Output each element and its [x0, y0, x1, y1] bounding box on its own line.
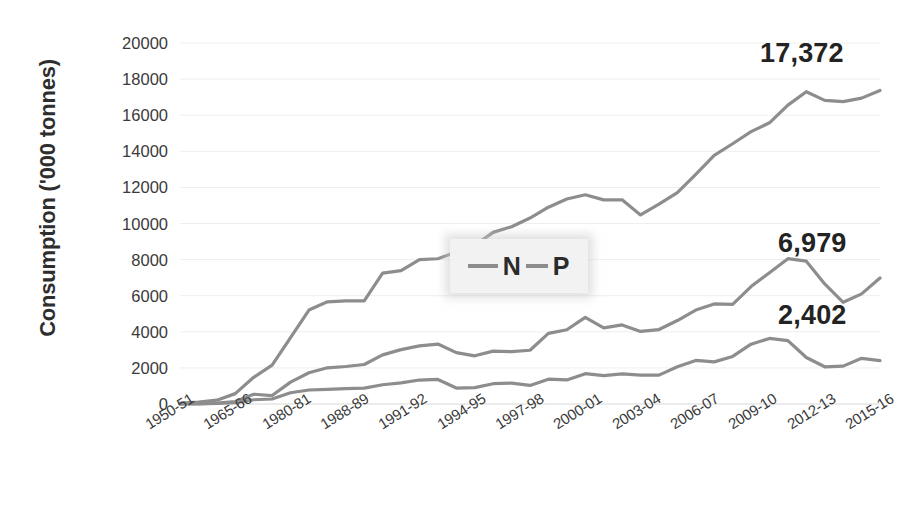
end-value-label-n: 17,372 [760, 38, 844, 69]
legend-label-n: N [502, 254, 522, 279]
legend-label-p: P [552, 254, 571, 279]
x-axis-tick-2006-07: 2006-07 [667, 390, 722, 433]
x-axis-tick-2012-13: 2012-13 [784, 390, 839, 433]
x-axis-tick-1988-89: 1988-89 [317, 390, 372, 433]
x-axis-tick-2000-01: 2000-01 [550, 390, 605, 433]
legend-line-marker-n [468, 264, 498, 268]
legend-line-marker-p [526, 264, 548, 268]
x-axis-tick-1965-66: 1965-66 [200, 390, 255, 433]
line-chart: Consumption ('000 tonnes) 20000180001600… [0, 0, 915, 520]
x-axis-tick-1991-92: 1991-92 [375, 390, 430, 433]
x-axis-tick-2009-10: 2009-10 [725, 390, 780, 433]
x-axis-tick-2003-04: 2003-04 [609, 390, 664, 433]
x-axis-tick-1950-51: 1950-51 [142, 390, 197, 433]
end-value-label-k: 2,402 [778, 300, 847, 331]
x-axis-tick-1980-81: 1980-81 [259, 390, 314, 433]
x-axis-tick-1997-98: 1997-98 [492, 390, 547, 433]
chart-legend[interactable]: N P [450, 239, 588, 293]
x-axis-tick-1994-95: 1994-95 [434, 390, 489, 433]
end-value-label-p: 6,979 [778, 228, 847, 259]
x-axis-tick-2015-16: 2015-16 [842, 390, 897, 433]
